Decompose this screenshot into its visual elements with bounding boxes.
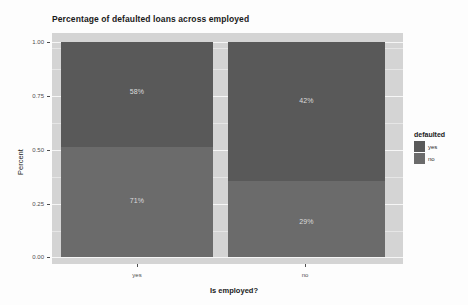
legend-swatch-no bbox=[414, 153, 425, 164]
bar-yes-label-bottom: 71% bbox=[61, 197, 213, 204]
legend-label-yes: yes bbox=[428, 144, 437, 150]
legend-label-no: no bbox=[428, 156, 435, 162]
bar-no-segment-defaulted-no[interactable]: 29% bbox=[228, 181, 385, 257]
bar-yes-label-top: 58% bbox=[61, 88, 213, 95]
y-tick-mark-3 bbox=[47, 150, 50, 151]
bar-no-segment-defaulted-yes[interactable]: 42% bbox=[228, 42, 385, 181]
chart-title: Percentage of defaulted loans across emp… bbox=[52, 14, 249, 24]
legend-swatch-yes bbox=[414, 141, 425, 152]
legend-item-yes[interactable]: yes bbox=[414, 141, 445, 152]
x-axis-label: Is employed? bbox=[0, 286, 468, 295]
legend-item-no[interactable]: no bbox=[414, 153, 445, 164]
y-tick-mark-5 bbox=[47, 257, 50, 258]
bar-no-label-bottom: 29% bbox=[228, 218, 385, 225]
x-tick-label-no: no bbox=[285, 272, 325, 278]
y-tick-mark-1 bbox=[47, 42, 50, 43]
bar-yes-segment-defaulted-yes[interactable]: 58% bbox=[61, 42, 213, 147]
x-tick-label-yes: yes bbox=[117, 272, 157, 278]
y-tick-label-5: 0.00 bbox=[16, 254, 44, 260]
y-tick-mark-2 bbox=[47, 96, 50, 97]
bar-yes[interactable]: 58% 71% bbox=[61, 42, 213, 257]
y-tick-label-2: 0.75 bbox=[16, 93, 44, 99]
y-tick-label-3: 0.50 bbox=[16, 147, 44, 153]
y-axis-label: Percent bbox=[16, 149, 25, 175]
bar-no-label-top: 42% bbox=[228, 97, 385, 104]
y-tick-label-1: 1.00 bbox=[16, 39, 44, 45]
y-tick-label-4: 0.25 bbox=[16, 201, 44, 207]
bar-no[interactable]: 42% 29% bbox=[228, 42, 385, 257]
bar-yes-segment-defaulted-no[interactable]: 71% bbox=[61, 147, 213, 257]
legend: defaulted yes no bbox=[414, 131, 445, 165]
x-tick-mark-no bbox=[305, 264, 306, 267]
y-tick-mark-4 bbox=[47, 204, 50, 205]
gridline-major-000 bbox=[52, 257, 403, 258]
chart-figure: Percentage of defaulted loans across emp… bbox=[0, 0, 468, 305]
x-tick-mark-yes bbox=[137, 264, 138, 267]
legend-title: defaulted bbox=[414, 131, 445, 138]
plot-panel: 58% 71% 42% 29% bbox=[52, 33, 403, 264]
